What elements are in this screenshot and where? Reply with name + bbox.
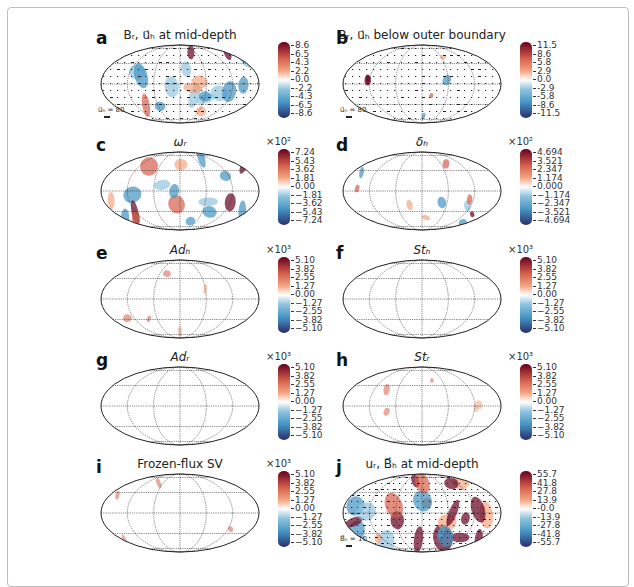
colorbar-exponent: ×10³ [266, 458, 291, 469]
colorbar-exponent: ×10² [266, 136, 291, 147]
panel-b: bBᵣ, u⃗ₕ below outer boundaryu⃗ₕ = 8011.… [332, 8, 632, 118]
vector-scale-label: u⃗ₕ = 80 [98, 106, 125, 114]
colorbar-tick-label: −5.10 [295, 538, 323, 547]
colorbar-exponent: ×10³ [508, 244, 533, 255]
colorbar-gradient [278, 42, 290, 118]
panel-title: Bᵣ, u⃗ₕ below outer boundary [338, 28, 506, 42]
panel-g: gAdᵣ×10³5.103.822.551.270.00−1.27−2.55−3… [20, 330, 320, 440]
colorbar-tick-label: -55.7 [537, 538, 560, 547]
colorbar-exponent: ×10³ [508, 351, 533, 362]
panel-title: Frozen-flux SV [137, 457, 223, 471]
mollweide-map [100, 473, 260, 557]
colorbar-gradient [520, 42, 532, 118]
vector-scale-label: u⃗ₕ = 80 [340, 106, 367, 114]
panel-a: aBᵣ, u⃗ₕ at mid-depthu⃗ₕ = 808.66.54.32.… [20, 8, 320, 118]
vector-scale-arrow-icon [346, 545, 352, 547]
panel-c: cωᵣ×10²7.245.433.621.810.00−1.81−3.62−5.… [20, 115, 320, 225]
colorbar-gradient [520, 257, 532, 333]
colorbar-gradient [278, 364, 290, 440]
colorbar-gradient [278, 471, 290, 547]
colorbar-gradient [520, 471, 532, 547]
panel-j: juᵣ, B⃗ₕ at mid-depthB⃗ₕ = 1055.741.827.… [332, 437, 632, 547]
panel-title: uᵣ, B⃗ₕ at mid-depth [365, 457, 478, 471]
colorbar-exponent: ×10³ [266, 351, 291, 362]
panel-title: ωᵣ [173, 135, 186, 149]
mollweide-map [342, 473, 502, 557]
panel-d: dδₕ×10²4.6943.5212.3471.1740.000−1.174−2… [332, 115, 632, 225]
panel-title: Adᵣ [171, 350, 190, 364]
panel-i: iFrozen-flux SV×10³5.103.822.551.270.00−… [20, 437, 320, 547]
panel-title: Stₕ [413, 243, 430, 257]
panel-title: δₕ [416, 135, 428, 149]
panel-title: Stᵣ [414, 350, 429, 364]
panel-letter: j [336, 459, 342, 476]
panel-h: hStᵣ×10³5.103.822.551.270.00−1.27−2.55−3… [332, 330, 632, 440]
colorbar-gradient [520, 364, 532, 440]
panel-f: fStₕ×10³5.103.822.551.270.00−1.27−2.55−3… [332, 223, 632, 333]
colorbar-gradient [520, 149, 532, 225]
colorbar-gradient [278, 149, 290, 225]
colorbar-gradient [278, 257, 290, 333]
panel-e: eAdₕ×10³5.103.822.551.270.00−1.27−2.55−3… [20, 223, 320, 333]
colorbar-exponent: ×10³ [266, 244, 291, 255]
colorbar-exponent: ×10² [508, 136, 533, 147]
vector-scale-label: B⃗ₕ = 10 [340, 535, 367, 543]
panel-title: Adₕ [170, 243, 191, 257]
panel-title: Bᵣ, u⃗ₕ at mid-depth [123, 28, 236, 42]
